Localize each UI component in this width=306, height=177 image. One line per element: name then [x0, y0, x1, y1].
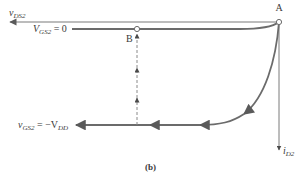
point-a-label: A [275, 3, 282, 13]
id2-axis-label: iD2 [283, 146, 294, 158]
point-b-marker [134, 26, 139, 31]
vgs2-neg-vdd-curve [76, 22, 279, 125]
vds2-axis-label: vDS2 [9, 8, 26, 20]
figure-caption: (b) [145, 163, 156, 172]
vgs2-zero-curve [72, 22, 279, 29]
vgs2-zero-label: VGS2 = 0 [33, 24, 67, 36]
vgs2-neg-vdd-label: vGS2 = −VDD [18, 120, 68, 132]
point-b-label: B [126, 34, 133, 44]
point-a-marker [276, 19, 281, 24]
